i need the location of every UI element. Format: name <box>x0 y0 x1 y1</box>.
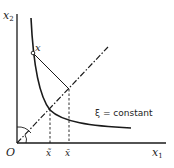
y-axis-label: x2 <box>3 9 14 23</box>
curve-label: ξ = constant <box>95 108 153 118</box>
x-axis-label: x1 <box>152 146 163 160</box>
point-x-label: x <box>35 42 41 53</box>
diagram-canvas: x2 x1 O x ξ = constant x̃ x̄ <box>0 0 174 168</box>
x-bar-label: x̄ <box>65 148 70 158</box>
angle-arc-outer <box>17 127 31 133</box>
x-tilde-label: x̃ <box>46 148 51 158</box>
ray-from-origin <box>17 47 108 143</box>
origin-label: O <box>6 146 15 159</box>
angle-arc-inner <box>25 135 27 143</box>
